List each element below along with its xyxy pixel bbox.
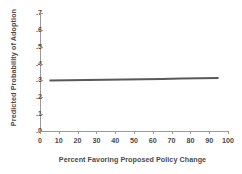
x-axis-title: Percent Favoring Proposed Policy Change <box>30 155 235 164</box>
data-line-predicted-probability <box>49 78 218 81</box>
chart-figure: Predicted Probability of Adoption .0.1.2… <box>0 0 242 174</box>
series-layer <box>0 0 242 174</box>
